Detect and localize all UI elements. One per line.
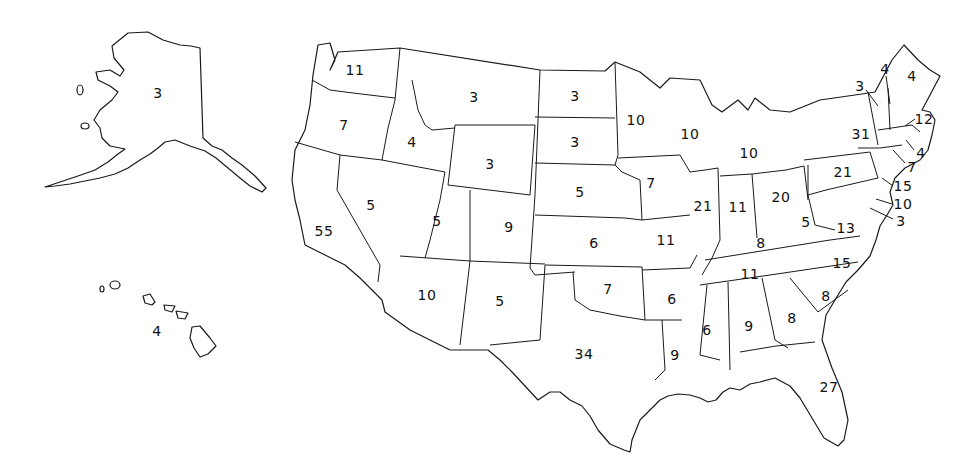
state-label-la: 9: [670, 348, 679, 362]
state-label-ia: 7: [646, 176, 655, 190]
state-label-sc: 8: [821, 289, 830, 303]
state-label-ar: 6: [667, 292, 676, 306]
state-label-nd: 3: [570, 89, 579, 103]
state-label-ma: 12: [915, 112, 934, 126]
state-label-ct: 7: [907, 160, 916, 174]
state-label-al: 9: [744, 319, 753, 333]
state-label-nh: 4: [880, 62, 889, 76]
state-label-tn: 11: [741, 267, 760, 281]
state-label-mi: 10: [740, 146, 759, 160]
state-label-wi: 10: [681, 127, 700, 141]
state-label-mo: 11: [657, 233, 676, 247]
state-label-in: 11: [729, 200, 748, 214]
island-shape: [100, 286, 104, 292]
state-shape-ak: [45, 32, 266, 192]
state-label-sd: 3: [570, 135, 579, 149]
state-label-md: 3: [896, 214, 905, 228]
state-label-pa: 21: [834, 165, 853, 179]
state-label-ok: 7: [603, 282, 612, 296]
island-shape: [81, 123, 89, 129]
state-label-id: 4: [407, 135, 416, 149]
state-label-az: 10: [418, 288, 437, 302]
state-label-wv: 5: [801, 215, 810, 229]
state-label-co: 9: [504, 220, 513, 234]
us-electoral-map: [0, 0, 964, 465]
state-label-ky: 8: [756, 236, 765, 250]
island-shape: [77, 85, 83, 95]
island-shape: [176, 311, 188, 319]
state-label-tx: 34: [575, 347, 594, 361]
state-shape-hi: [190, 326, 216, 357]
state-label-nv: 5: [366, 198, 375, 212]
state-label-ca: 55: [315, 224, 334, 238]
state-label-hi: 4: [152, 324, 161, 338]
state-label-vt: 3: [855, 79, 864, 93]
state-label-ga: 8: [787, 311, 796, 325]
state-label-nm: 5: [495, 294, 504, 308]
state-label-mn: 10: [627, 113, 646, 127]
island-shape: [143, 294, 155, 305]
island-shape: [110, 281, 120, 289]
state-label-wy: 3: [485, 157, 494, 171]
state-label-ne: 5: [575, 185, 584, 199]
state-label-va: 13: [837, 221, 856, 235]
state-label-ut: 5: [432, 214, 441, 228]
island-shape: [164, 305, 175, 312]
state-label-ny: 31: [852, 127, 871, 141]
state-label-il: 21: [694, 199, 713, 213]
state-label-me: 4: [907, 69, 916, 83]
state-label-nj: 15: [894, 179, 913, 193]
state-label-wa: 11: [346, 63, 365, 77]
state-label-ak: 3: [153, 86, 162, 100]
state-label-nc: 15: [833, 256, 852, 270]
state-label-ri: 4: [916, 146, 925, 160]
state-label-mt: 3: [469, 90, 478, 104]
state-label-de: 10: [894, 197, 913, 211]
state-label-fl: 27: [820, 380, 839, 394]
state-label-ms: 6: [702, 323, 711, 337]
state-label-oh: 20: [772, 190, 791, 204]
state-label-or: 7: [339, 118, 348, 132]
state-label-ks: 6: [589, 236, 598, 250]
